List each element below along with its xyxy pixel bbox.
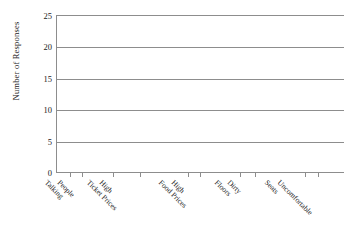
x-axis-category-label: HighFood Prices — [163, 178, 195, 210]
x-axis-category-label: PeopleTalking — [49, 178, 77, 206]
x-tick-mark — [305, 172, 306, 177]
gridline — [57, 110, 344, 111]
y-axis-title: Number of Responses — [11, 1, 21, 121]
y-tick-label: 10 — [44, 105, 53, 115]
plot-area: 0510152025 — [56, 15, 344, 172]
y-tick-label: 5 — [48, 137, 52, 147]
x-tick-mark — [188, 172, 189, 177]
gridline — [57, 142, 344, 143]
x-tick-mark — [70, 172, 71, 177]
x-tick-mark — [140, 172, 141, 177]
y-tick-label: 20 — [44, 42, 53, 52]
y-tick-label: 0 — [48, 168, 52, 178]
y-tick-label: 25 — [44, 11, 53, 21]
x-tick-mark — [318, 172, 319, 177]
x-axis-category-label: UncomfortableSeats — [269, 178, 315, 224]
chart-figure: Number of Responses 0510152025 PeopleTal… — [0, 0, 352, 240]
x-axis-category-label: DirtyFloors — [219, 178, 243, 202]
y-tick-label: 15 — [44, 74, 53, 84]
gridline — [57, 47, 344, 48]
x-tick-mark — [82, 172, 83, 177]
gridline — [57, 79, 344, 80]
x-axis-category-label: HighTicket Prices — [91, 178, 126, 213]
x-tick-mark — [113, 172, 114, 177]
x-tick-mark — [200, 172, 201, 177]
x-tick-mark — [255, 172, 256, 177]
x-tick-mark — [240, 172, 241, 177]
